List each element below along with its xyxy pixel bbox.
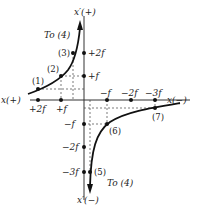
horizontal-right-label: x(−) (167, 95, 187, 105)
point-label-6: (6) (109, 126, 121, 136)
vtick-minus-3f: −3f (62, 167, 80, 177)
point-label-7: (7) (152, 112, 164, 122)
lower-arrow-head-icon (87, 184, 93, 194)
point-label-1: (1) (32, 76, 44, 86)
vtick-plus-2f: +2f (88, 48, 106, 58)
horizontal-left-label: x(+) (1, 95, 21, 105)
point-label-3: (3) (58, 48, 70, 58)
vtick-minus-2f: −2f (62, 142, 80, 152)
lens-image-diagram: x′(+) x′(−) x(+) x(−) +2f +f −f −2f −3f … (0, 0, 200, 205)
htick-minus-2f: −2f (121, 88, 139, 98)
vtick-plus-f: +f (88, 71, 101, 81)
point-label-5: (5) (94, 167, 106, 177)
vertical-top-label: x′(+) (74, 7, 96, 17)
point-label-2: (2) (47, 64, 59, 74)
htick-plus-2f: +2f (29, 104, 47, 114)
lower-arrow-annotation: To (4) (107, 178, 134, 188)
upper-arrow-annotation: To (4) (44, 30, 71, 40)
htick-minus-f: −f (100, 88, 113, 98)
htick-minus-3f: −3f (145, 88, 163, 98)
vertical-bottom-label: x′(−) (77, 195, 99, 205)
upper-arrow-head-icon (77, 20, 83, 30)
vtick-minus-f: −f (64, 119, 77, 129)
htick-plus-f: +f (56, 104, 69, 114)
